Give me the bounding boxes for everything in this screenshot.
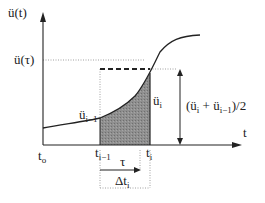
- t0-label: to: [38, 148, 47, 165]
- arrow-down-icon: [177, 138, 183, 145]
- average-label: (üi + üi−1)/2: [186, 98, 246, 115]
- arrow-up-icon: [177, 69, 183, 76]
- x-axis-label: t: [243, 125, 247, 140]
- y-axis-label: ü(t): [8, 5, 27, 20]
- delta-t-label: Δti: [115, 173, 130, 190]
- ti1-label: ti−1: [95, 145, 111, 162]
- shaded-integral-area: [100, 73, 150, 145]
- left-value-label: üi−1: [79, 107, 98, 124]
- y-axis-arrow-icon: [40, 12, 46, 22]
- x-axis-arrow-icon: [232, 142, 242, 148]
- tau-level-label: ü(τ): [14, 52, 34, 67]
- right-value-label: üi: [153, 93, 163, 110]
- ti-label: ti: [146, 145, 153, 162]
- tau-label: τ: [120, 154, 125, 169]
- acceleration-diagram: ü(t) ü(τ) t üi−1 üi (üi + üi−1)/2 to ti−…: [0, 0, 265, 203]
